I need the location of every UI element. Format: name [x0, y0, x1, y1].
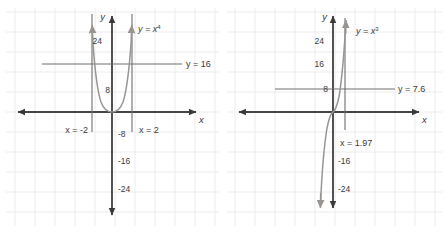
curve-label-right-base: y = x [355, 26, 376, 36]
two-graph-figure: 24 8 -8 -16 -24 y x y = x4 y = 16 x = -2… [0, 0, 446, 234]
label-x-equals-2: x = 2 [139, 125, 159, 135]
x-axis-label-right: x [421, 114, 428, 125]
y-tick-24-right: 24 [315, 36, 325, 46]
label-y-equals-16: y = 16 [186, 59, 211, 69]
y-tick-neg24-left: -24 [118, 184, 131, 194]
curve-label-left-base: y = x [137, 24, 158, 34]
y-tick-8-left: 8 [105, 85, 110, 95]
curve-label-right-exponent: 3 [375, 26, 379, 32]
curve-label-left-exponent: 4 [157, 24, 161, 30]
label-x-equals-neg2: x = -2 [65, 125, 88, 135]
y-axis-label-right: y [321, 11, 328, 22]
graph-panel-left: 24 8 -8 -16 -24 y x y = x4 y = 16 x = -2… [0, 0, 223, 234]
y-tick-neg16-right: -16 [338, 156, 351, 166]
y-tick-16-right: 16 [315, 59, 325, 69]
y-tick-24-left: 24 [93, 36, 103, 46]
y-tick-8-right: 8 [323, 84, 328, 94]
y-tick-neg16-left: -16 [118, 156, 131, 166]
grid-lines-right [227, 8, 442, 226]
x-axis-label-left: x [198, 114, 205, 125]
svg-text:y = x3: y = x3 [355, 26, 379, 37]
y-tick-neg24-right: -24 [338, 184, 351, 194]
curve-label-right: y = x3 [355, 26, 379, 37]
y-axis-label-left: y [99, 11, 106, 22]
label-x-equals-197: x = 1.97 [340, 138, 372, 148]
label-y-equals-76: y = 7.6 [398, 84, 425, 94]
y-tick-neg8-left: -8 [118, 129, 126, 139]
graph-panel-right: 24 16 8 -16 -24 y x y = x3 y = 7.6 x = 1… [223, 0, 446, 234]
